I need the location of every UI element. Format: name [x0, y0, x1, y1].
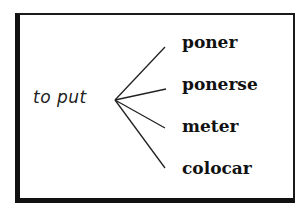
target-term-ponerse: ponerse — [182, 74, 258, 94]
connector-meter — [115, 100, 165, 128]
connector-poner — [115, 47, 165, 100]
target-term-meter: meter — [182, 116, 238, 136]
connector-colocar — [115, 100, 165, 168]
connector-ponerse — [115, 89, 166, 100]
target-term-poner: poner — [182, 32, 237, 52]
source-term: to put — [33, 87, 87, 107]
target-term-colocar: colocar — [182, 158, 252, 178]
